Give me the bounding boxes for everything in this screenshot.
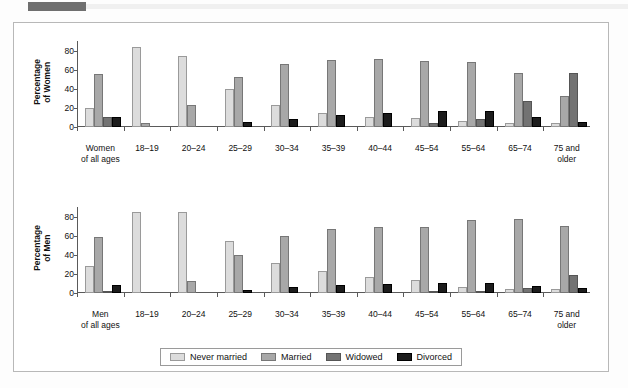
x-tick-mark (170, 293, 171, 297)
bars-container (551, 207, 587, 293)
bar-never (365, 277, 374, 293)
bar-group (450, 207, 497, 293)
bar-married (187, 105, 196, 127)
bar-married (560, 96, 569, 127)
x-tick-mark (357, 293, 358, 297)
bar-never (271, 105, 280, 127)
bar-married (141, 123, 150, 127)
bar-never (411, 280, 420, 293)
bar-never (551, 123, 560, 127)
bar-group (310, 41, 357, 127)
bar-married (374, 59, 383, 127)
bar-married (280, 64, 289, 127)
chart-legend: Never marriedMarriedWidowedDivorced (160, 348, 462, 366)
y-tick-label: 80 (65, 212, 74, 222)
bar-married (560, 226, 569, 293)
bar-divorced (112, 285, 121, 293)
bar-never (505, 289, 514, 293)
x-tick-mark (217, 293, 218, 297)
bar-group (450, 41, 497, 127)
bar-never (132, 212, 141, 293)
bar-never (178, 212, 187, 293)
bars-container (132, 41, 150, 127)
bar-group (170, 207, 217, 293)
bar-never (411, 118, 420, 127)
bar-group (497, 41, 544, 127)
bar-divorced (438, 111, 447, 127)
bar-never (505, 123, 514, 127)
bar-group (357, 41, 404, 127)
bar-never (85, 266, 94, 293)
bar-married (514, 73, 523, 127)
bar-married (420, 61, 429, 127)
bar-divorced (485, 111, 494, 127)
bar-divorced (336, 285, 345, 293)
legend-label: Never married (190, 352, 247, 362)
x-tick-mark (124, 293, 125, 297)
legend-item-widowed[interactable]: Widowed (326, 352, 383, 362)
x-tick-mark (450, 127, 451, 131)
y-axis-label-men: Percentage of Men (32, 225, 48, 271)
x-tick-mark (310, 127, 311, 131)
bars-container (85, 41, 121, 127)
bar-widowed (429, 291, 438, 293)
x-tick-mark (543, 293, 544, 297)
chart-page: Percentage of Women 020406080Women of al… (0, 0, 628, 388)
bar-divorced (243, 122, 252, 127)
bar-divorced (383, 113, 392, 127)
bar-group (403, 41, 450, 127)
bar-group (543, 207, 590, 293)
bar-widowed (103, 117, 112, 127)
bar-married (327, 229, 336, 293)
bars-container (411, 41, 447, 127)
plot-area-women: 020406080Women of all ages18–1920–2425–2… (77, 41, 590, 127)
x-tick-mark (264, 293, 265, 297)
bar-married (234, 255, 243, 293)
bar-married (467, 220, 476, 293)
x-tick-mark (403, 127, 404, 131)
bar-widowed (523, 288, 532, 293)
legend-item-married[interactable]: Married (261, 352, 312, 362)
bars-container (132, 207, 141, 293)
bar-group (77, 207, 124, 293)
bar-divorced (289, 119, 298, 127)
legend-item-divorced[interactable]: Divorced (397, 352, 453, 362)
legend-item-never[interactable]: Never married (170, 352, 247, 362)
x-tick-label: 75 and older (530, 309, 603, 331)
bar-widowed (476, 119, 485, 127)
bar-widowed (569, 275, 578, 293)
bar-group (310, 207, 357, 293)
legend-label: Divorced (417, 352, 453, 362)
bars-container (318, 41, 345, 127)
bar-never (551, 289, 560, 293)
bar-never (225, 241, 234, 293)
x-tick-mark (124, 127, 125, 131)
bar-group (543, 41, 590, 127)
x-tick-mark (77, 127, 78, 131)
bar-never (318, 271, 327, 293)
bar-group (357, 207, 404, 293)
x-tick-mark (497, 127, 498, 131)
bar-never (178, 56, 187, 127)
bars-container (458, 41, 494, 127)
y-tick-label: 20 (65, 103, 74, 113)
bars-container (411, 207, 447, 293)
bar-divorced (532, 286, 541, 293)
bars-container (178, 41, 196, 127)
bar-never (85, 108, 94, 127)
header-rule (86, 4, 628, 9)
y-tick-label: 40 (65, 84, 74, 94)
y-tick-label: 40 (65, 250, 74, 260)
bars-container (225, 207, 252, 293)
bar-divorced (532, 117, 541, 128)
x-tick-mark (357, 127, 358, 131)
bar-divorced (289, 287, 298, 293)
bars-container (85, 207, 121, 293)
legend-label: Widowed (346, 352, 383, 362)
bar-group (497, 207, 544, 293)
chart-panel-women: Percentage of Women 020406080Women of al… (14, 29, 610, 181)
bar-group (124, 41, 171, 127)
bar-never (458, 121, 467, 127)
bar-divorced (112, 117, 121, 128)
bar-group (124, 207, 171, 293)
